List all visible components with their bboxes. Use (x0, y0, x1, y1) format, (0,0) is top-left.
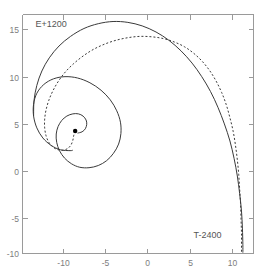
trajectory-plot-figure: 15 10 5 0 -5 -10 -10 -5 0 5 10 (0, 0, 265, 275)
x-tick-label-10: 10 (228, 258, 238, 268)
x-tick-label-0: 0 (145, 258, 150, 268)
spiral-center-dot (73, 129, 77, 133)
y-tick-label-10: 10 (10, 73, 20, 83)
y-tick-label-0: 0 (14, 167, 19, 177)
figure-background (0, 0, 265, 275)
markers-group (73, 129, 77, 133)
x-tick-label-minus10: -10 (57, 258, 70, 268)
x-tick-label-minus5: -5 (102, 258, 110, 268)
annotation-time-label: T-2400 (193, 230, 221, 240)
plot-svg: 15 10 5 0 -5 -10 -10 -5 0 5 10 (0, 0, 265, 275)
y-tick-label-minus10: -10 (7, 249, 20, 259)
annotation-epoch-label: E+1200 (35, 19, 66, 29)
y-tick-label-15: 15 (10, 25, 20, 35)
y-tick-label-5: 5 (14, 120, 19, 130)
x-tick-label-5: 5 (188, 258, 193, 268)
y-tick-label-minus5: -5 (11, 214, 19, 224)
